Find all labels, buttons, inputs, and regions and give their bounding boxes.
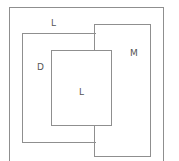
inner-label: L [79, 88, 84, 97]
left-label: D [37, 63, 44, 72]
right-label: M [130, 49, 138, 58]
outer-label: L [51, 19, 56, 28]
